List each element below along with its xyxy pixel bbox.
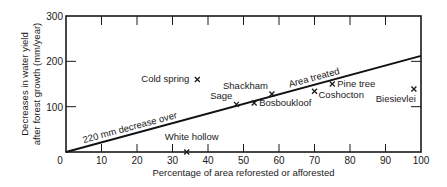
data-point: Coshocton [312, 89, 364, 101]
data-point: Cold spring [141, 73, 200, 84]
x-tick-label: 10 [96, 155, 108, 166]
x-tick-label: 30 [167, 155, 179, 166]
x-tick-label: 70 [309, 155, 321, 166]
trend-annotation-lower: 220 mm decrease over [81, 109, 178, 145]
data-point: Biesievlei [376, 86, 417, 104]
x-axis-title: Percentage of area reforested or affores… [152, 167, 334, 178]
data-point: Bosboukloof [252, 97, 312, 108]
x-tick-label: 90 [380, 155, 392, 166]
trend-line: 220 mm decrease overArea treated [66, 56, 421, 152]
y-axis-title-line1: Decreases in water yield [19, 32, 30, 136]
trend-line-path [66, 56, 421, 152]
y-tick-label: 300 [46, 11, 63, 22]
x-marker-icon [411, 86, 416, 91]
data-point: Pine tree [330, 78, 376, 89]
point-label: Pine tree [337, 78, 375, 89]
x-marker-icon [330, 82, 335, 87]
chart-canvas: 0102030405060708090100100200300 220 mm d… [0, 0, 447, 187]
data-point: Sage [210, 90, 239, 107]
x-marker-icon [312, 89, 317, 94]
y-tick-label: 200 [46, 56, 63, 67]
point-label: White hollow [165, 131, 219, 142]
data-points: Cold springSageShackhamBosboukloofPine t… [141, 73, 416, 154]
point-label: Sage [210, 90, 232, 101]
x-tick-label: 80 [344, 155, 356, 166]
x-tick-label: 0 [57, 155, 63, 166]
point-label: Bosboukloof [259, 97, 312, 108]
point-label: Biesievlei [376, 93, 416, 104]
point-label: Cold spring [141, 73, 189, 84]
point-label: Shackham [223, 80, 268, 91]
water-yield-chart: 0102030405060708090100100200300 220 mm d… [0, 0, 447, 187]
point-label: Coshocton [319, 89, 364, 100]
x-tick-label: 50 [238, 155, 250, 166]
x-tick-label: 20 [131, 155, 143, 166]
y-tick-label: 100 [46, 102, 63, 113]
x-tick-label: 100 [413, 155, 430, 166]
x-marker-icon [195, 77, 200, 82]
x-tick-label: 60 [273, 155, 285, 166]
y-axis-title-line2: after forest growth (mm/year) [31, 23, 42, 145]
x-tick-label: 40 [202, 155, 214, 166]
